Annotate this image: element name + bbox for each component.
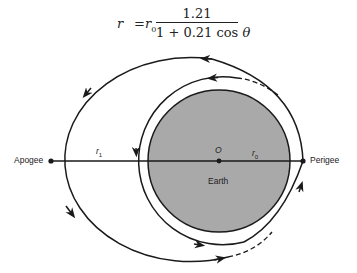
- ellipse-arrow-perigee: [299, 186, 301, 192]
- r1-label: r1: [96, 146, 102, 158]
- apogee-point: [48, 158, 53, 163]
- circular-orbit-arrow-top: [212, 78, 218, 79]
- perigee-label: Perigee: [310, 155, 339, 165]
- center-label: O: [215, 145, 222, 155]
- center-point: [217, 159, 222, 164]
- r0-label: r0: [252, 148, 258, 160]
- r0-sub: 0: [255, 154, 258, 160]
- perigee-point: [300, 158, 305, 163]
- ellipse-arrow-upper-left: [86, 88, 91, 94]
- earth-label: Earth: [208, 176, 228, 186]
- ellipse-arrow-bottom: [214, 259, 221, 261]
- circular-orbit-arrow-bottom: [194, 244, 200, 245]
- r1-sub: 1: [99, 152, 102, 158]
- transfer-dashed-top: [237, 78, 278, 95]
- ellipse-arrow-lower-left: [66, 206, 72, 214]
- apogee-label: Apogee: [14, 155, 43, 165]
- orbit-diagram: [0, 0, 357, 273]
